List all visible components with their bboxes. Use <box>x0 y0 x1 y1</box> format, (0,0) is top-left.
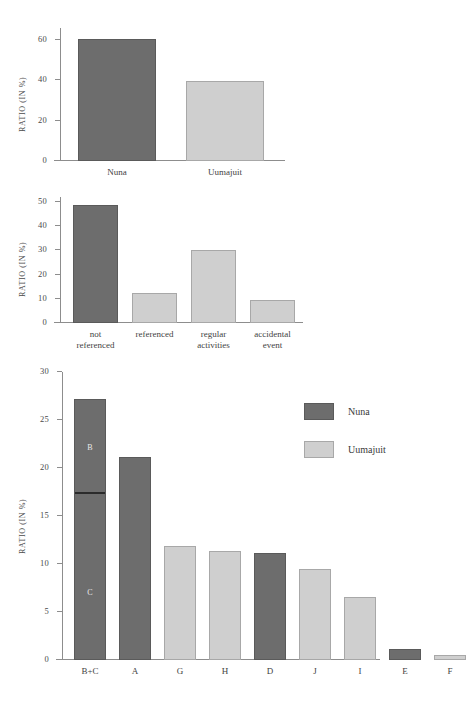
bar-j <box>299 569 331 660</box>
chart-3-ytick: 5 <box>57 611 62 612</box>
bar-accidental-event <box>250 300 295 323</box>
chart-3-xtick-label: J <box>293 666 337 677</box>
bar-b-plus-c: B C <box>74 399 106 660</box>
chart-1-ytick: 0 <box>55 160 60 161</box>
chart-2-ytick: 10 <box>55 298 60 299</box>
chart-3-ytick-label: 30 <box>40 366 49 376</box>
chart-1-ytick: 20 <box>55 120 60 121</box>
chart-2-ytick-label: 50 <box>38 196 47 206</box>
bar-g <box>164 546 196 660</box>
legend-item-uumajuit: Uumajuit <box>304 441 386 458</box>
bar-referenced <box>132 293 177 323</box>
chart-3-ytick-label: 10 <box>40 558 49 568</box>
bar-regular-activities <box>191 250 236 323</box>
chart-3-ytick-label: 5 <box>44 606 49 616</box>
chart-3-plot: RATIO (in %) 0 5 10 15 20 25 30 B C B <box>62 372 380 660</box>
chart-3-legend: Nuna Uumajuit <box>304 403 386 479</box>
legend-swatch-uumajuit <box>304 441 334 458</box>
chart-2-xtick-label: accidental event <box>236 329 309 351</box>
chart-3-ytick-label: 15 <box>40 510 49 520</box>
chart-2-ytick: 20 <box>55 274 60 275</box>
chart-1-ytick-label: 60 <box>38 34 47 44</box>
chart-3-ytick-label: 25 <box>40 414 49 424</box>
chart-2-ytick: 50 <box>55 201 60 202</box>
chart-1-y-axis <box>60 28 61 161</box>
chart-2-y-axis <box>60 197 61 323</box>
chart-3-xtick-label: I <box>338 666 382 677</box>
chart-2-ytick: 30 <box>55 249 60 250</box>
chart-1-ytick-label: 20 <box>38 115 47 125</box>
bar-a <box>119 457 151 660</box>
chart-3-xtick-label: E <box>383 666 427 677</box>
bar-e <box>389 649 421 661</box>
bar-i <box>344 597 376 660</box>
chart-1-ylabel: RATIO (in %) <box>18 77 27 132</box>
chart-1-ytick-label: 0 <box>42 155 47 165</box>
chart-3-xtick-label: B+C <box>68 666 112 677</box>
chart-3-ytick: 0 <box>57 659 62 660</box>
chart-1-xtick-label: Uumajuit <box>186 167 264 178</box>
stack-segment-label-c: C <box>75 588 105 597</box>
stack-divider-b-c <box>75 492 105 494</box>
chart-3-ytick-label: 20 <box>40 462 49 472</box>
chart-3-ytick: 20 <box>57 467 62 468</box>
stack-segment-label-b: B <box>75 443 105 452</box>
bar-h <box>209 551 241 660</box>
chart-2-ylabel: RATIO (in %) <box>18 242 27 297</box>
chart-3-ytick: 25 <box>57 419 62 420</box>
chart-3-xtick-label: G <box>158 666 202 677</box>
chart-3-xtick-label: F <box>428 666 470 677</box>
chart-3-ytick-label: 0 <box>44 654 49 664</box>
bar-not-referenced <box>73 205 118 323</box>
legend-label-uumajuit: Uumajuit <box>348 444 386 455</box>
chart-2-ytick: 40 <box>55 225 60 226</box>
chart-3-xtick-label: A <box>113 666 157 677</box>
chart-3-figure: RATIO (in %) 0 5 10 15 20 25 30 B C B <box>0 365 408 707</box>
bar-uumajuit <box>186 81 264 161</box>
legend-item-nuna: Nuna <box>304 403 386 420</box>
chart-3-ylabel: RATIO (in %) <box>18 499 27 554</box>
chart-2-ytick-label: 0 <box>42 317 47 327</box>
chart-1-figure: RATIO (in %) 0 20 40 60 Nuna Uumajuit <box>0 0 408 185</box>
legend-swatch-nuna <box>304 403 334 420</box>
chart-1-xtick-label: Nuna <box>78 167 156 178</box>
legend-label-nuna: Nuna <box>348 406 370 417</box>
chart-2-ytick-label: 40 <box>38 220 47 230</box>
chart-2-ytick-label: 10 <box>38 293 47 303</box>
chart-2-ytick: 0 <box>55 322 60 323</box>
chart-3-ytick: 30 <box>57 371 62 372</box>
chart-1-ytick: 60 <box>55 39 60 40</box>
chart-3-ytick: 15 <box>57 515 62 516</box>
chart-2-ytick-label: 30 <box>38 244 47 254</box>
chart-1-plot: RATIO (in %) 0 20 40 60 Nuna Uumajuit <box>60 28 285 161</box>
chart-2-plot: RATIO (in %) 0 10 20 30 40 50 not refere… <box>60 197 303 323</box>
bar-d <box>254 553 286 661</box>
chart-3-xtick-label: H <box>203 666 247 677</box>
bar-f <box>434 655 466 660</box>
chart-1-ytick: 40 <box>55 79 60 80</box>
chart-2-figure: RATIO (in %) 0 10 20 30 40 50 not refere… <box>0 185 408 365</box>
chart-3-xtick-label: D <box>248 666 292 677</box>
chart-2-ytick-label: 20 <box>38 269 47 279</box>
chart-3-ytick: 10 <box>57 563 62 564</box>
bar-nuna <box>78 39 156 161</box>
chart-1-ytick-label: 40 <box>38 74 47 84</box>
chart-3-y-axis <box>62 372 63 660</box>
